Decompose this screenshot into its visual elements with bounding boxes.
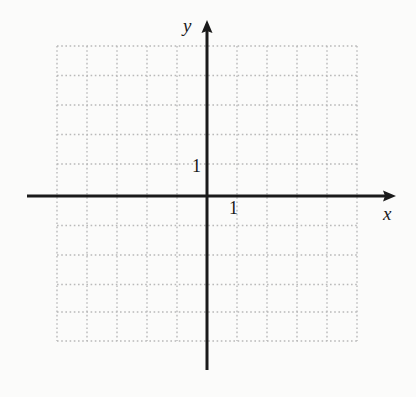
y-axis-unit-tick-label: 1 <box>192 157 201 175</box>
y-axis-label: y <box>183 16 191 35</box>
x-axis-label: x <box>383 204 391 223</box>
axes <box>27 20 396 370</box>
x-axis-unit-tick-label: 1 <box>229 199 238 217</box>
coordinate-plane-figure: y x 1 1 <box>0 0 416 397</box>
coordinate-plane-canvas <box>0 0 416 397</box>
